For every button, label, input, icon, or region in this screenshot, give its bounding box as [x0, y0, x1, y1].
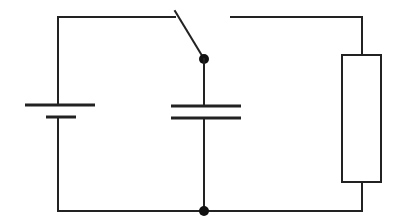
circuit-diagram [0, 0, 403, 222]
resistor [342, 55, 381, 182]
switch-arm [175, 11, 204, 59]
wire-bottom [58, 118, 362, 211]
switch [175, 11, 209, 64]
capacitor [171, 106, 241, 118]
wire-top-right [231, 17, 362, 55]
battery [25, 105, 95, 117]
wire-top-left [58, 17, 175, 104]
bottom-junction [199, 206, 209, 216]
